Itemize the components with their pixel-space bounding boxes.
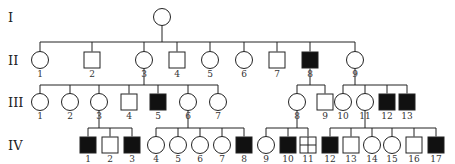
individual-number: 9 — [263, 154, 269, 163]
individual-iv-6: 6 — [192, 137, 209, 164]
individual-iii-1: 1 — [32, 94, 49, 122]
individual-number: 8 — [294, 111, 300, 121]
individual-iii-3: 3 — [91, 94, 108, 122]
affected-male-icon — [236, 137, 252, 153]
individual-iv-7: 7 — [214, 137, 231, 164]
individual-iv-4: 4 — [148, 137, 165, 164]
individual-number: 6 — [185, 111, 191, 121]
male-square-icon — [317, 94, 333, 110]
male-square-icon — [269, 52, 285, 68]
individual-number: 4 — [174, 69, 180, 79]
individual-number: 2 — [67, 111, 73, 121]
individual-iii-9: 9 — [317, 94, 333, 121]
individual-ii-4: 4 — [169, 52, 185, 79]
individual-ii-7: 7 — [269, 52, 285, 79]
female-circle-icon — [335, 94, 352, 111]
individual-number: 7 — [215, 111, 221, 121]
affected-male-icon — [322, 137, 338, 153]
individual-iv-12: 12 — [322, 137, 338, 163]
individual-number: 9 — [352, 69, 358, 79]
individual-iii-11: 11 — [357, 94, 374, 122]
individual-iii-8: 8 — [289, 94, 306, 122]
female-circle-icon — [180, 94, 197, 111]
affected-male-icon — [150, 94, 166, 110]
female-circle-icon — [214, 137, 231, 154]
individual-iii-13: 13 — [399, 94, 415, 121]
individual-iv-15: 15 — [384, 137, 401, 164]
female-circle-icon — [192, 137, 209, 154]
individual-number: 14 — [366, 154, 378, 163]
individual-number: 12 — [324, 154, 335, 163]
individual-iv-2: 2 — [102, 137, 118, 163]
individual-number: 1 — [85, 154, 91, 163]
individual-number: 5 — [155, 111, 161, 121]
individual-iii-2: 2 — [62, 94, 79, 122]
individual-iii-6: 6 — [180, 94, 197, 122]
female-circle-icon — [136, 52, 153, 69]
affected-male-icon — [124, 137, 140, 153]
individual-number: 10 — [282, 154, 294, 163]
individual-ii-9: 9 — [347, 52, 364, 80]
male-square-icon — [406, 137, 422, 153]
female-circle-icon — [258, 137, 275, 154]
individual-number: 17 — [430, 154, 442, 163]
female-circle-icon — [364, 137, 381, 154]
male-square-icon — [84, 52, 100, 68]
individual-iv-10: 10 — [280, 137, 296, 163]
individual-number: 6 — [241, 69, 247, 79]
individual-number: 7 — [219, 154, 225, 163]
individual-number: 3 — [141, 69, 147, 79]
individual-iv-14: 14 — [364, 137, 381, 164]
individual-number: 4 — [153, 154, 159, 163]
generation-label: III — [8, 95, 23, 110]
pedigree-chart: IIIIIIIV 1234567891234567891011121312345… — [0, 0, 455, 163]
individual-number: 13 — [345, 154, 357, 163]
generation-label: IV — [8, 138, 23, 153]
individual-number: 1 — [37, 111, 43, 121]
affected-male-icon — [379, 94, 395, 110]
individual-number: 11 — [359, 111, 370, 121]
individual-number: 11 — [302, 154, 313, 163]
individual-iv-11: 11 — [300, 137, 316, 163]
female-circle-icon — [170, 137, 187, 154]
male-square-icon — [102, 137, 118, 153]
individual-iv-16: 16 — [406, 137, 422, 163]
female-circle-icon — [202, 52, 219, 69]
affected-male-icon — [399, 94, 415, 110]
female-circle-icon — [289, 94, 306, 111]
female-circle-icon — [347, 52, 364, 69]
individual-number: 6 — [197, 154, 203, 163]
individual-iii-7: 7 — [210, 94, 227, 122]
female-circle-icon — [148, 137, 165, 154]
individual-number: 9 — [322, 111, 328, 121]
female-circle-icon — [236, 52, 253, 69]
individual-ii-6: 6 — [236, 52, 253, 80]
generation-label: I — [8, 10, 13, 25]
individual-iv-13: 13 — [343, 137, 359, 163]
individual-iv-1: 1 — [80, 137, 96, 163]
individual-i-1 — [154, 9, 171, 26]
individual-number: 2 — [107, 154, 113, 163]
individual-iv-17: 17 — [428, 137, 444, 163]
individual-ii-3: 3 — [136, 52, 153, 80]
female-circle-icon — [357, 94, 374, 111]
individual-symbols: 1234567891234567891011121312345678910111… — [32, 9, 445, 164]
individual-number: 7 — [274, 69, 280, 79]
female-circle-icon — [32, 94, 49, 111]
individual-number: 3 — [96, 111, 102, 121]
individual-number: 1 — [37, 69, 43, 79]
male-square-icon — [121, 94, 137, 110]
individual-iii-5: 5 — [150, 94, 166, 121]
individual-ii-8: 8 — [302, 52, 318, 79]
individual-ii-5: 5 — [202, 52, 219, 80]
female-circle-icon — [91, 94, 108, 111]
individual-iii-12: 12 — [379, 94, 395, 121]
individual-number: 2 — [89, 69, 95, 79]
male-square-icon — [169, 52, 185, 68]
female-circle-icon — [154, 9, 171, 26]
individual-iv-3: 3 — [124, 137, 140, 163]
individual-iv-5: 5 — [170, 137, 187, 164]
individual-number: 3 — [129, 154, 135, 163]
individual-number: 5 — [175, 154, 181, 163]
individual-number: 8 — [241, 154, 247, 163]
